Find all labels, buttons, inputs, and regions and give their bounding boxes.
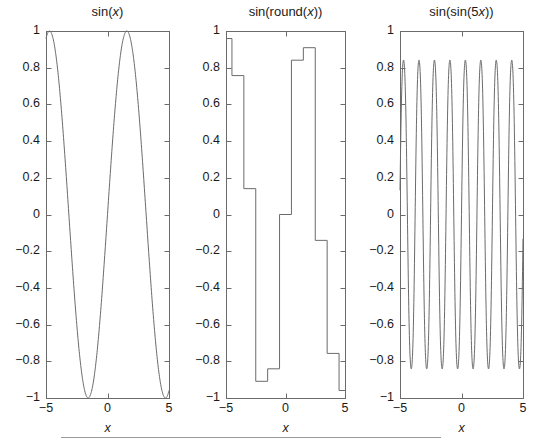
horizontal-rule bbox=[61, 437, 441, 438]
ytick-label: 0 bbox=[356, 208, 394, 221]
data-series-line bbox=[46, 31, 169, 398]
xtick-label: −5 bbox=[26, 402, 66, 415]
ytick-label: 0.4 bbox=[182, 134, 220, 147]
ytick-label: −0.8 bbox=[182, 354, 220, 367]
data-series-line bbox=[400, 60, 523, 369]
ytick-label: 0.8 bbox=[2, 61, 40, 74]
ytick-label: 0.2 bbox=[182, 171, 220, 184]
ytick-label: 0.2 bbox=[2, 171, 40, 184]
ytick-label: 0.4 bbox=[2, 134, 40, 147]
subplot-sin-round-x: sin(round(x))−1−0.8−0.6−0.4−0.200.20.40.… bbox=[0, 0, 542, 447]
plot-area-1 bbox=[0, 0, 542, 447]
x-axis-label: x bbox=[226, 421, 345, 435]
ytick-label: −0.8 bbox=[2, 354, 40, 367]
x-axis-label: x bbox=[46, 421, 169, 435]
matlab-figure-canvas: sin(x)−1−0.8−0.6−0.4−0.200.20.40.60.81−5… bbox=[0, 0, 542, 447]
ytick-label: 0.6 bbox=[356, 97, 394, 110]
ytick-label: 0 bbox=[2, 208, 40, 221]
xtick-label: 0 bbox=[88, 402, 128, 415]
panel-title: sin(x) bbox=[46, 4, 169, 20]
xtick-label: −5 bbox=[206, 402, 246, 415]
panel-title: sin(round(x)) bbox=[226, 4, 345, 20]
ytick-label: −0.6 bbox=[356, 318, 394, 331]
ytick-label: −0.2 bbox=[182, 244, 220, 257]
plot-area-0 bbox=[0, 0, 542, 447]
ytick-label: 0.8 bbox=[356, 61, 394, 74]
ytick-label: −0.6 bbox=[182, 318, 220, 331]
ytick-label: 1 bbox=[182, 24, 220, 37]
ytick-label: 0.8 bbox=[182, 61, 220, 74]
xtick-label: 0 bbox=[442, 402, 482, 415]
subplot-sin-sin-5x: sin(sin(5x))−1−0.8−0.6−0.4−0.200.20.40.6… bbox=[0, 0, 542, 447]
ytick-label: −0.2 bbox=[2, 244, 40, 257]
ytick-label: 0 bbox=[182, 208, 220, 221]
x-axis-label: x bbox=[400, 421, 523, 435]
xtick-label: −5 bbox=[380, 402, 420, 415]
xtick-label: 5 bbox=[503, 402, 542, 415]
axes-box bbox=[401, 32, 524, 399]
ytick-label: 0.6 bbox=[182, 97, 220, 110]
ytick-label: −1 bbox=[356, 391, 394, 404]
ytick-label: 0.4 bbox=[356, 134, 394, 147]
data-series-line bbox=[226, 39, 345, 391]
ytick-label: −0.4 bbox=[356, 281, 394, 294]
ytick-label: 1 bbox=[2, 24, 40, 37]
ytick-label: 0.6 bbox=[2, 97, 40, 110]
xtick-label: 5 bbox=[149, 402, 189, 415]
ytick-label: −0.6 bbox=[2, 318, 40, 331]
ytick-label: 0.2 bbox=[356, 171, 394, 184]
ytick-label: 1 bbox=[356, 24, 394, 37]
ytick-label: −0.4 bbox=[2, 281, 40, 294]
xtick-label: 5 bbox=[325, 402, 365, 415]
ytick-label: −0.8 bbox=[356, 354, 394, 367]
xtick-label: 0 bbox=[266, 402, 306, 415]
axes-box bbox=[47, 32, 170, 399]
ytick-label: −0.4 bbox=[182, 281, 220, 294]
axes-box bbox=[227, 32, 346, 399]
ytick-label: −0.2 bbox=[356, 244, 394, 257]
ytick-label: −1 bbox=[182, 391, 220, 404]
subplot-sin-x: sin(x)−1−0.8−0.6−0.4−0.200.20.40.60.81−5… bbox=[0, 0, 542, 447]
panel-title: sin(sin(5x)) bbox=[400, 4, 523, 20]
plot-area-2 bbox=[0, 0, 542, 447]
ytick-label: −1 bbox=[2, 391, 40, 404]
